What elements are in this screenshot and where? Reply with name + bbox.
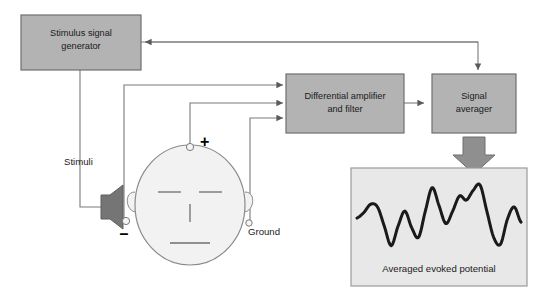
electrode-negative-icon	[122, 217, 129, 224]
electrode-positive-icon	[186, 143, 193, 150]
stimuli-wire	[80, 70, 101, 207]
negative-sign-label: –	[120, 225, 129, 242]
electrode-ground-wire	[250, 118, 283, 222]
stimulus-generator-box: Stimulus signal generator	[21, 15, 141, 70]
positive-sign-label: +	[200, 133, 209, 150]
speaker-icon	[101, 185, 123, 229]
output-panel: Averaged evoked potential	[351, 168, 527, 286]
stimulus-generator-label-line1: Stimulus signal	[50, 28, 112, 38]
signal-averager-label-line2: averager	[456, 104, 492, 114]
signal-averager-box: Signal averager	[432, 74, 516, 133]
output-panel-caption: Averaged evoked potential	[382, 263, 495, 274]
stimuli-label: Stimuli	[64, 156, 93, 167]
stimulus-generator-label-line2: generator	[61, 41, 100, 51]
head-icon	[122, 143, 252, 265]
ground-label: Ground	[248, 226, 280, 237]
differential-amplifier-box: Differential amplifier and filter	[286, 74, 404, 133]
signal-averager-label-line1: Signal	[461, 91, 487, 101]
evoked-potential-diagram: Stimulus signal generator Differential a…	[0, 0, 536, 289]
differential-amplifier-label-line2: and filter	[327, 104, 362, 114]
trigger-line	[141, 42, 478, 70]
differential-amplifier-label-line1: Differential amplifier	[304, 91, 385, 101]
